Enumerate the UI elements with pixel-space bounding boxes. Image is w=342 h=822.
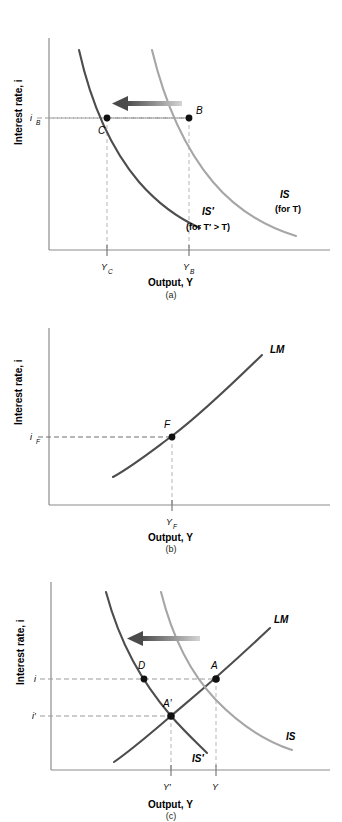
panel-b-plot: F LM Interest rate, i i F Y F Output, Y [0, 300, 342, 550]
panel-c-xtick-label-Y: Y [212, 782, 219, 792]
panel-c-y-axis-title: Interest rate, i [15, 619, 26, 685]
panel-c-ytick-label-i-prime: i′ [32, 711, 36, 721]
panel-b-point-F [169, 434, 176, 441]
panel-b-ytick-label-iF: i F [30, 432, 41, 445]
panel-a-point-label-C: C [98, 125, 106, 136]
panel-a-curve-label-IS: IS [280, 189, 290, 200]
panel-b-y-axis-title: Interest rate, i [13, 359, 24, 425]
panel-a-xtick-label-YB: Y B [183, 262, 195, 275]
panel-c-xtick-label-Y-prime: Y′ [163, 782, 171, 792]
panel-b: F LM Interest rate, i i F Y F Output, Y … [0, 300, 342, 550]
panel-b-curve-label-LM: LM [270, 344, 285, 355]
panel-c-point-A-prime [167, 712, 175, 720]
panel-a-plot: C B Interest rate, i i B Y C Y B IS (for… [0, 0, 342, 300]
panel-c-curve-label-IS: IS [286, 731, 296, 742]
panel-c-point-D [141, 676, 148, 683]
svg-text:i: i [30, 432, 33, 442]
panel-a-curve-sublabel-IS-prime: (for T′ > T) [186, 222, 230, 232]
panel-c-caption: (c) [166, 811, 177, 821]
panel-a-curve-sublabel-IS: (for T) [275, 204, 301, 214]
panel-a-xtick-label-YC: Y C [101, 262, 113, 275]
svg-text:B: B [36, 119, 41, 126]
panel-b-curve-LM [113, 355, 262, 477]
svg-text:i: i [30, 113, 33, 123]
panel-c: D A A′ LM IS IS′ Interest rate, i i i′ Y… [0, 550, 342, 822]
panel-c-point-label-D: D [138, 660, 145, 671]
svg-text:Y: Y [183, 262, 190, 272]
panel-c-plot: D A A′ LM IS IS′ Interest rate, i i i′ Y… [0, 550, 342, 822]
svg-text:F: F [36, 438, 41, 445]
panel-b-xtick-label-YF: Y F [166, 517, 178, 530]
panel-b-point-label-F: F [164, 419, 171, 430]
panel-c-curve-label-IS-prime: IS′ [192, 753, 204, 764]
panel-a-point-C [104, 115, 111, 122]
panel-a-point-label-B: B [196, 105, 203, 116]
svg-text:F: F [173, 523, 178, 530]
svg-text:Y: Y [166, 517, 173, 527]
panel-c-point-label-A-prime: A′ [162, 698, 173, 709]
panel-a-y-axis-title: Interest rate, i [13, 79, 24, 145]
panel-c-shift-arrow [127, 631, 200, 646]
svg-text:C: C [108, 268, 113, 275]
panel-c-curve-label-LM: LM [274, 614, 289, 625]
panel-c-point-label-A: A [210, 660, 218, 671]
panel-a: C B Interest rate, i i B Y C Y B IS (for… [0, 0, 342, 300]
panel-a-curve-IS-prime [79, 50, 200, 228]
svg-text:B: B [190, 268, 195, 275]
panel-a-curve-label-IS-prime: IS′ [202, 206, 214, 217]
panel-c-ytick-label-i: i [34, 674, 37, 684]
panel-c-point-A [212, 675, 220, 683]
panel-c-curve-LM [114, 628, 270, 762]
panel-a-caption: (a) [166, 290, 177, 300]
panel-a-ytick-label-iB: i B [30, 113, 41, 126]
svg-text:Y: Y [101, 262, 108, 272]
panel-a-point-B [186, 115, 193, 122]
